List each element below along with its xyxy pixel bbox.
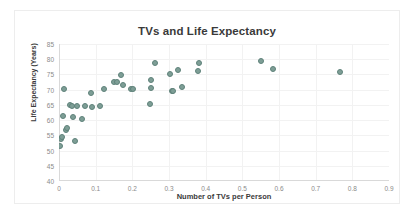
gridline-horizontal — [59, 151, 389, 152]
y-tick-label: 40 — [47, 178, 54, 185]
scatter-point — [60, 113, 66, 119]
y-tick-label: 80 — [47, 56, 54, 63]
gridline-vertical — [279, 44, 280, 181]
plot-area — [59, 44, 389, 181]
scatter-point — [152, 60, 158, 66]
scatter-point — [64, 125, 70, 131]
chart-card: TVs and Life Expectancy Life Expectancy … — [14, 10, 400, 204]
gridline-horizontal — [59, 120, 389, 121]
plot-wrapper: 40455055606570758085 00.10.20.30.40.50.6… — [59, 44, 389, 181]
scatter-point — [175, 67, 181, 73]
chart-title: TVs and Life Expectancy — [15, 25, 399, 37]
x-tick-label: 0.7 — [311, 185, 320, 192]
scatter-point — [120, 82, 126, 88]
x-tick-label: 0.4 — [201, 185, 210, 192]
scatter-point — [72, 138, 78, 144]
scatter-point — [270, 66, 276, 72]
y-axis-line — [59, 44, 60, 181]
x-tick-label: 0.5 — [238, 185, 247, 192]
scatter-point — [258, 58, 264, 64]
y-tick-label: 60 — [47, 117, 54, 124]
gridline-vertical — [132, 44, 133, 181]
x-axis-line — [59, 180, 389, 181]
y-tick-label: 70 — [47, 86, 54, 93]
y-axis-label: Life Expectancy (Years) — [30, 23, 37, 143]
scatter-point — [88, 90, 94, 96]
scatter-point — [118, 72, 124, 78]
y-tick-label: 50 — [47, 147, 54, 154]
scatter-point — [79, 116, 85, 122]
scatter-point — [101, 86, 107, 92]
y-tick-label: 55 — [47, 132, 54, 139]
gridline-vertical — [242, 44, 243, 181]
scatter-point — [147, 101, 153, 107]
y-tick-label: 85 — [47, 41, 54, 48]
scatter-point — [337, 69, 343, 75]
gridline-horizontal — [59, 90, 389, 91]
scatter-point — [114, 79, 120, 85]
scatter-point — [82, 103, 88, 109]
scatter-point — [59, 134, 65, 140]
x-tick-label: 0.6 — [274, 185, 283, 192]
gridline-vertical — [96, 44, 97, 181]
scatter-point — [70, 114, 76, 120]
scatter-point — [167, 71, 173, 77]
scatter-point — [61, 86, 67, 92]
scatter-point — [170, 88, 176, 94]
gridline-horizontal — [59, 59, 389, 60]
x-tick-label: 0.2 — [128, 185, 137, 192]
scatter-point — [59, 143, 63, 149]
gridline-vertical — [352, 44, 353, 181]
x-tick-label: 0.1 — [91, 185, 100, 192]
scatter-point — [195, 68, 201, 74]
gridline-vertical — [316, 44, 317, 181]
x-tick-label: 0 — [57, 185, 61, 192]
scatter-point — [97, 103, 103, 109]
y-tick-label: 65 — [47, 101, 54, 108]
x-tick-label: 0.3 — [164, 185, 173, 192]
x-tick-label: 0.8 — [348, 185, 357, 192]
x-axis-label: Number of TVs per Person — [59, 192, 389, 201]
scatter-point — [148, 77, 154, 83]
gridline-horizontal — [59, 105, 389, 106]
y-tick-label: 75 — [47, 71, 54, 78]
gridline-vertical — [169, 44, 170, 181]
gridline-horizontal — [59, 166, 389, 167]
gridline-horizontal — [59, 135, 389, 136]
x-tick-label: 0.9 — [384, 185, 393, 192]
gridline-horizontal — [59, 44, 389, 45]
y-tick-label: 45 — [47, 162, 54, 169]
scatter-point — [148, 85, 154, 91]
scatter-point — [130, 86, 136, 92]
scatter-point — [74, 103, 80, 109]
scatter-point — [89, 104, 95, 110]
scatter-point — [196, 60, 202, 66]
gridline-vertical — [206, 44, 207, 181]
